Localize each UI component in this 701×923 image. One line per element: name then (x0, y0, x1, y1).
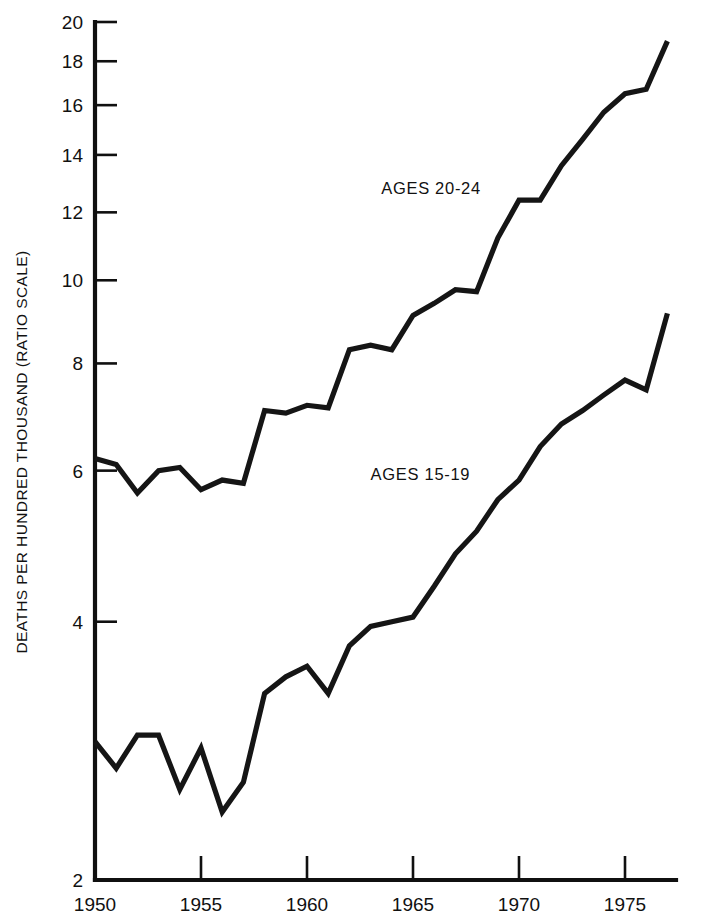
plot-axes (95, 22, 676, 880)
x-axis-tick-marks (201, 856, 625, 880)
y-tick-label-18: 18 (62, 51, 83, 72)
series-lines (95, 41, 667, 812)
y-axis-tick-labels: 2018161412108642 (62, 12, 84, 891)
x-axis-tick-labels: 195019551960196519701975 (74, 894, 646, 915)
y-tick-label-2: 2 (72, 870, 83, 891)
y-tick-label-12: 12 (62, 202, 83, 223)
series-label-ages-15-19: AGES 15-19 (371, 465, 471, 483)
y-tick-label-6: 6 (72, 461, 83, 482)
y-axis-title-group: DEATHS PER HUNDRED THOUSAND (RATIO SCALE… (13, 250, 30, 653)
series-inline-labels: AGES 20-24AGES 15-19 (371, 179, 481, 483)
series-line-ages-20-24 (95, 41, 667, 493)
x-tick-label-1975: 1975 (604, 894, 646, 915)
chart-container: 2018161412108642 19501955196019651970197… (0, 0, 701, 923)
y-tick-label-4: 4 (72, 612, 83, 633)
x-tick-label-1965: 1965 (392, 894, 434, 915)
y-tick-label-14: 14 (62, 145, 84, 166)
deaths-per-hundred-thousand-line-chart: 2018161412108642 19501955196019651970197… (0, 0, 701, 923)
y-axis-title: DEATHS PER HUNDRED THOUSAND (RATIO SCALE… (13, 250, 30, 653)
y-tick-label-16: 16 (62, 95, 83, 116)
y-axis-tick-marks (95, 22, 117, 622)
y-tick-label-20: 20 (62, 12, 83, 33)
x-tick-label-1950: 1950 (74, 894, 116, 915)
y-tick-label-10: 10 (62, 270, 83, 291)
y-tick-label-8: 8 (72, 353, 83, 374)
series-line-ages-15-19 (95, 313, 667, 812)
x-tick-label-1970: 1970 (498, 894, 540, 915)
series-label-ages-20-24: AGES 20-24 (381, 179, 481, 197)
x-tick-label-1960: 1960 (286, 894, 328, 915)
x-tick-label-1955: 1955 (180, 894, 222, 915)
